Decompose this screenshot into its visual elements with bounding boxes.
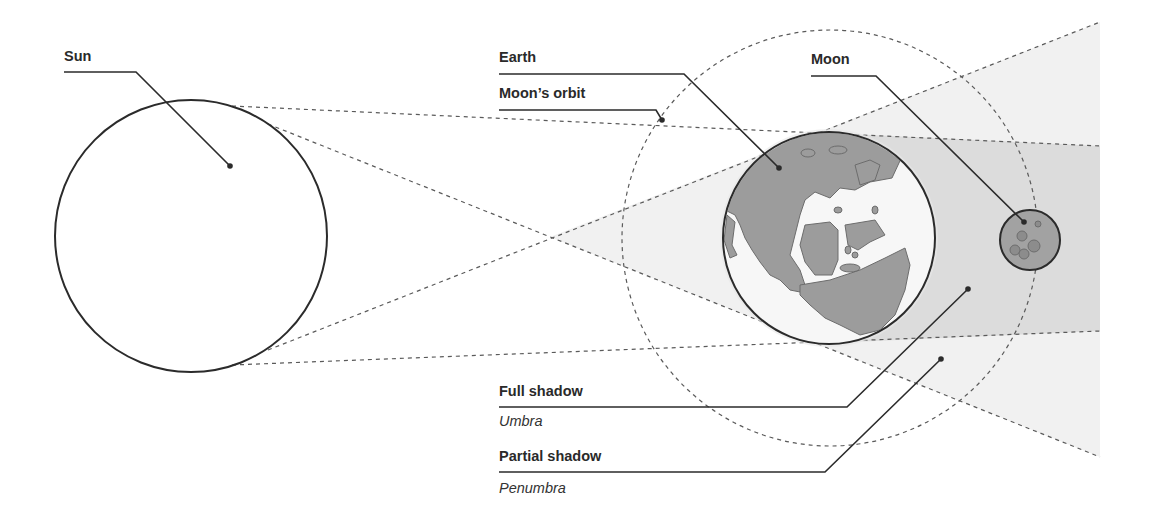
full-shadow-label: Full shadow (499, 384, 583, 399)
moons-orbit-label: Moon’s orbit (499, 86, 585, 101)
earth-label: Earth (499, 50, 536, 65)
eclipse-diagram (0, 0, 1152, 521)
penumbra-label: Penumbra (499, 481, 566, 496)
sun-label: Sun (64, 49, 91, 64)
moon-body (1000, 210, 1060, 270)
earth-globe (720, 129, 938, 347)
moons-orbit-leader (499, 110, 662, 120)
sun-circle (55, 100, 327, 372)
partial-shadow-label: Partial shadow (499, 449, 601, 464)
umbra-label: Umbra (499, 414, 543, 429)
moon-label: Moon (811, 52, 850, 67)
